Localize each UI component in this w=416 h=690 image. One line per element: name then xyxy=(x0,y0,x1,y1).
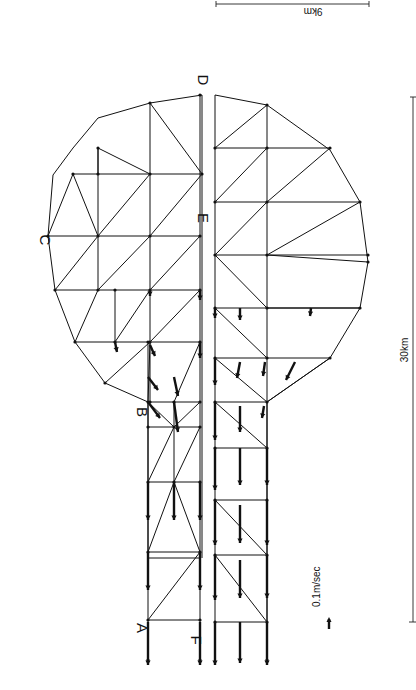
lower-mesh-node xyxy=(265,146,268,149)
upper-mesh-element-edge xyxy=(150,103,202,174)
lower-mesh-element-edge xyxy=(267,255,368,262)
mesh-diagram: ABCDEF 9km 30km 0.1m/sec xyxy=(0,0,416,690)
velocity-arrowhead-icon xyxy=(145,661,150,666)
velocity-arrowhead-icon xyxy=(147,292,152,297)
velocity-arrowhead-icon xyxy=(212,436,217,441)
upper-mesh-node xyxy=(96,288,99,291)
upper-mesh-element-edge xyxy=(98,174,150,236)
label-e: E xyxy=(195,213,212,223)
velocity-arrowhead-icon xyxy=(237,481,242,486)
width-scale-bar: 9km xyxy=(216,1,369,17)
upper-mesh-element-edge xyxy=(98,148,150,174)
label-b: B xyxy=(134,407,151,417)
upper-mesh-node xyxy=(200,172,203,175)
upper-mesh-element-edge xyxy=(148,482,174,552)
upper-mesh-element-edge xyxy=(174,482,200,552)
velocity-arrowhead-icon xyxy=(171,516,176,521)
velocity-arrowhead-icon xyxy=(197,661,202,666)
velocity-arrowhead-icon xyxy=(145,586,150,591)
velocity-arrowhead-icon xyxy=(264,661,269,666)
lower-mesh-node xyxy=(265,253,268,256)
lower-mesh-element-edge xyxy=(215,148,267,202)
point-labels: ABCDEF xyxy=(37,75,212,645)
upper-mesh-node xyxy=(53,288,56,291)
upper-mesh-element-edge xyxy=(150,290,200,342)
lower-mesh-node xyxy=(265,356,268,359)
upper-mesh-node xyxy=(198,234,201,237)
lower-mesh-element-edge xyxy=(215,202,267,255)
lower-mesh-node xyxy=(328,356,331,359)
upper-mesh-node xyxy=(73,340,76,343)
velocity-arrowhead-icon xyxy=(237,539,242,544)
upper-mesh-element-edge xyxy=(105,342,150,383)
velocity-arrowhead-icon xyxy=(212,486,217,491)
velocity-arrowhead-icon xyxy=(212,596,217,601)
lower-mesh-node xyxy=(366,260,369,263)
upper-mesh-node xyxy=(146,425,149,428)
lower-mesh-node xyxy=(213,200,216,203)
upper-mesh-node xyxy=(103,381,106,384)
lower-mesh-element-edge xyxy=(215,105,267,148)
upper-mesh-node xyxy=(198,93,201,96)
velocity-arrowhead-icon xyxy=(212,314,217,319)
upper-mesh-node xyxy=(148,172,151,175)
velocity-arrowhead-icon xyxy=(237,659,242,664)
velocity-arrowhead-icon xyxy=(237,428,242,433)
upper-mesh-node xyxy=(148,340,151,343)
lower-mesh-node xyxy=(213,146,216,149)
upper-mesh-node xyxy=(198,400,201,403)
velocity-scale-arrowhead-icon xyxy=(327,617,332,622)
upper-mesh-node xyxy=(96,146,99,149)
velocity-vectors xyxy=(114,290,314,665)
velocity-arrowhead-icon xyxy=(145,516,150,521)
upper-mesh-node xyxy=(113,288,116,291)
upper-mesh-node xyxy=(148,101,151,104)
upper-mesh-node xyxy=(198,618,201,621)
label-a: A xyxy=(134,623,151,633)
lower-mesh-node xyxy=(265,200,268,203)
velocity-arrowhead-icon xyxy=(264,481,269,486)
velocity-arrowhead-icon xyxy=(264,594,269,599)
upper-mesh-element-edge xyxy=(150,174,202,236)
label-c: C xyxy=(37,235,54,246)
velocity-scale: 0.1m/sec xyxy=(311,566,332,629)
lower-mesh-element-edge xyxy=(215,255,267,308)
length-scale-label: 30km xyxy=(399,338,410,362)
velocity-scale-label: 0.1m/sec xyxy=(311,566,322,607)
lower-mesh-node xyxy=(213,253,216,256)
lower-mesh-element-edge xyxy=(267,202,360,255)
velocity-arrowhead-icon xyxy=(212,661,217,666)
velocity-arrowhead-icon xyxy=(197,586,202,591)
upper-mesh-element-edge xyxy=(98,236,150,290)
upper-mesh-element-edge xyxy=(148,427,174,482)
label-d: D xyxy=(195,75,212,86)
lower-mesh-half xyxy=(213,95,369,662)
lower-mesh-node xyxy=(265,306,268,309)
upper-mesh-element-edge xyxy=(75,290,98,342)
lower-mesh-node xyxy=(358,200,361,203)
upper-mesh-node xyxy=(148,234,151,237)
lower-mesh-node xyxy=(328,146,331,149)
velocity-arrowhead-icon xyxy=(264,541,269,546)
lower-mesh-element-edge xyxy=(267,148,330,202)
lower-mesh-element-edge xyxy=(267,358,330,402)
lower-mesh-element-edge xyxy=(215,358,267,402)
lower-mesh-node xyxy=(265,400,268,403)
upper-mesh-node xyxy=(198,425,201,428)
lower-mesh-node xyxy=(366,253,369,256)
velocity-arrowhead-icon xyxy=(212,381,217,386)
velocity-arrowhead-icon xyxy=(212,541,217,546)
lower-mesh-node xyxy=(265,103,268,106)
upper-mesh-half xyxy=(46,93,203,661)
upper-mesh-element-edge xyxy=(73,174,98,236)
upper-mesh-node xyxy=(96,234,99,237)
velocity-arrowhead-icon xyxy=(237,316,242,321)
upper-mesh-element-edge xyxy=(150,236,200,290)
upper-mesh-node xyxy=(146,618,149,621)
upper-mesh-element-edge xyxy=(148,552,200,620)
upper-mesh-element-edge xyxy=(55,236,98,290)
upper-mesh-node xyxy=(71,172,74,175)
upper-mesh-element-edge xyxy=(115,290,150,342)
lower-mesh-node xyxy=(358,306,361,309)
length-scale-bar: 30km xyxy=(399,97,416,622)
